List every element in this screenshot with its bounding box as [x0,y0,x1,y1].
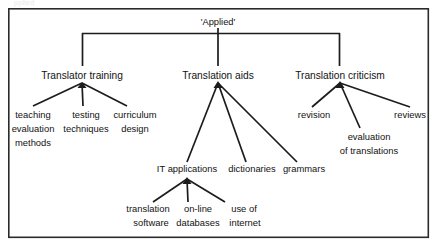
cropped-top-text: pplied [14,0,34,6]
leaf-line: teaching [15,109,50,120]
leaf-line: evaluation [348,131,391,142]
node-translation-criticism[interactable]: Translation criticism [295,70,385,81]
node-reviews[interactable]: reviews [394,109,426,120]
node-revision[interactable]: revision [298,109,330,120]
leaf-line: of translations [340,145,399,156]
node-it-applications[interactable]: IT applications [157,163,218,174]
leaf-line: design [121,123,149,134]
leaf-line: testing [72,109,100,120]
leaf-line: evaluation [12,123,55,134]
leaf-line: translation [126,203,169,214]
tree-diagram: 'Applied' Translator training Translatio… [0,0,437,247]
leaf-line: use of [231,203,257,214]
node-grammars[interactable]: grammars [283,163,326,174]
leaf-line: software [133,217,168,228]
diagram-canvas: pplied [0,0,437,247]
node-translator-training[interactable]: Translator training [41,70,123,81]
leaf-line: internet [229,217,261,228]
leaf-line: on-line [184,203,212,214]
leaf-line: databases [176,217,220,228]
node-applied[interactable]: 'Applied' [201,17,236,27]
node-translation-aids[interactable]: Translation aids [182,70,254,81]
leaf-line: methods [15,137,51,148]
node-teaching-evaluation-methods[interactable]: teaching evaluation methods [12,109,55,148]
leaf-line: grammars [283,163,326,174]
leaf-line: techniques [63,123,109,134]
leaf-line: dictionaries [228,163,276,174]
leaf-line: revision [298,109,330,120]
node-dictionaries[interactable]: dictionaries [228,163,276,174]
leaf-line: IT applications [157,163,218,174]
leaf-line: reviews [394,109,426,120]
leaf-line: curriculum [113,109,156,120]
